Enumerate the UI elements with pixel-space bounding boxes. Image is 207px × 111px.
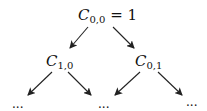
edge-root-right <box>113 27 134 48</box>
right-subscript: 0,1 <box>146 60 162 71</box>
root-node: C0,0 = 1 <box>78 8 137 25</box>
root-subscript: 0,0 <box>89 14 105 25</box>
left-subscript: 1,0 <box>57 60 73 71</box>
leaf-1-ellipsis: ... <box>12 98 23 110</box>
root-value: = 1 <box>110 6 137 24</box>
right-symbol: C <box>135 52 146 70</box>
left-symbol: C <box>46 52 57 70</box>
leaf-2-ellipsis: ... <box>98 98 109 110</box>
edge-left-leaf2 <box>68 72 91 95</box>
root-symbol: C <box>78 6 89 24</box>
left-node: C1,0 <box>46 54 73 71</box>
edge-right-leaf2 <box>115 72 140 95</box>
right-node: C0,1 <box>135 54 162 71</box>
edge-right-leaf3 <box>158 72 182 95</box>
leaf-3-ellipsis: ... <box>186 96 197 108</box>
edge-root-left <box>70 27 88 48</box>
edge-left-leaf1 <box>28 72 52 95</box>
